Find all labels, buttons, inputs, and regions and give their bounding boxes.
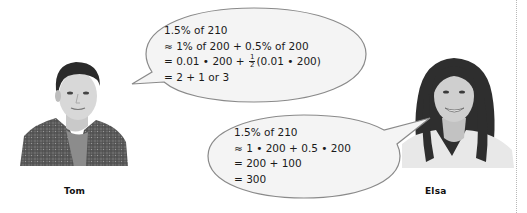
one-half-fraction: 12: [249, 54, 255, 69]
tom-photo: [18, 58, 130, 166]
comparison-illustration: Tom Elsa 1.5% of 210 ≈ 1%: [0, 0, 527, 213]
tom-bubble-line-2: ≈ 1% of 200 + 0.5% of 200: [164, 39, 321, 55]
margin-dotted-rule: [516, 0, 517, 213]
tom-bubble-line-3-end: (0.01 • 200): [256, 55, 320, 67]
elsa-bubble-line-3: = 200 + 100: [234, 156, 351, 172]
tom-bubble-line-3: = 0.01 • 200 + 12(0.01 • 200): [164, 54, 321, 70]
elsa-speech-bubble: 1.5% of 210 ≈ 1 • 200 + 0.5 • 200 = 200 …: [204, 112, 434, 202]
elsa-bubble-line-2: ≈ 1 • 200 + 0.5 • 200: [234, 141, 351, 157]
tom-speech-bubble: 1.5% of 210 ≈ 1% of 200 + 0.5% of 200 = …: [126, 6, 370, 106]
elsa-bubble-line-1: 1.5% of 210: [234, 125, 351, 141]
tom-bubble-line-4: = 2 + 1 or 3: [164, 70, 321, 86]
elsa-bubble-line-4: = 300: [234, 172, 351, 188]
tom-bubble-line-3-start: = 0.01 • 200 +: [164, 55, 248, 67]
tom-bubble-line-1: 1.5% of 210: [164, 23, 321, 39]
tom-name-label: Tom: [64, 186, 85, 196]
